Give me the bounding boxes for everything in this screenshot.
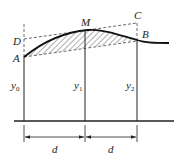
label-D: D [12, 35, 21, 47]
diagram-svg: A D M C B y0 y1 y2 d d [0, 0, 184, 162]
label-C: C [134, 9, 142, 21]
label-d-2: d [108, 143, 114, 155]
arrowhead-icon [86, 135, 91, 138]
label-M: M [80, 16, 91, 28]
label-d-1: d [52, 143, 58, 155]
label-y0: y0 [10, 79, 20, 93]
label-A: A [12, 52, 20, 64]
arrowhead-icon [131, 135, 136, 138]
label-y1: y1 [73, 79, 83, 93]
arrowhead-icon [25, 135, 30, 138]
arrowhead-icon [79, 135, 84, 138]
label-y2: y2 [125, 79, 135, 93]
diagram: A D M C B y0 y1 y2 d d [0, 0, 184, 162]
label-B: B [142, 28, 149, 40]
